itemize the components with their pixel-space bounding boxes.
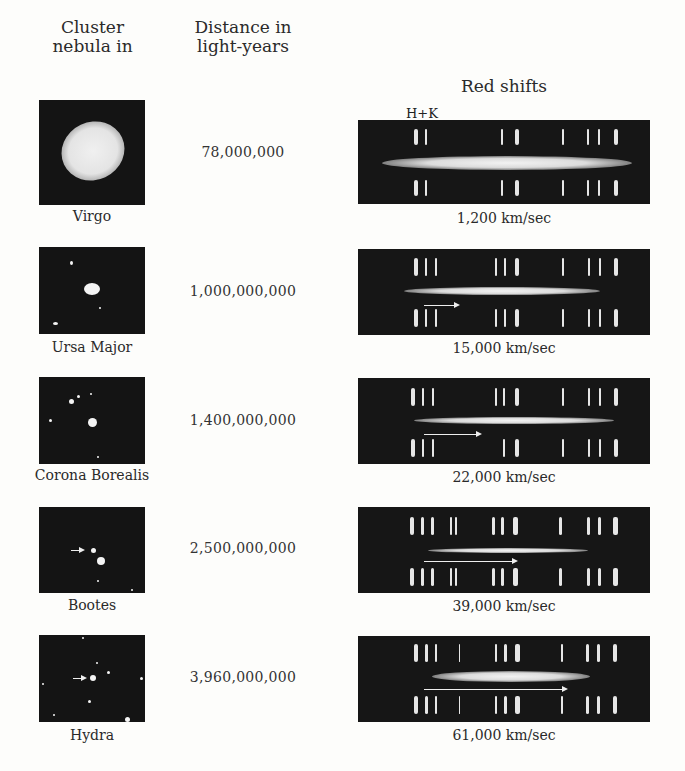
galaxy-blob — [84, 283, 100, 295]
spectrum-panel-corona-borealis — [358, 378, 650, 464]
cluster-name: Bootes — [0, 597, 184, 613]
spectrum-panel-virgo — [358, 120, 650, 204]
velocity-value: 22,000 km/sec — [358, 469, 650, 485]
galaxy-blob — [90, 675, 96, 681]
header-line: nebula in — [20, 37, 165, 56]
header-line: light-years — [170, 37, 316, 56]
bootes-nebula-image — [39, 507, 145, 593]
virgo-nebula-image — [39, 100, 145, 205]
distance-value: 3,960,000,000 — [170, 669, 316, 685]
galaxy-blob — [97, 557, 105, 565]
spectrum-panel-hydra — [358, 636, 650, 722]
cluster-column-header: Cluster nebula in — [20, 18, 165, 56]
spectrum-panel-bootes — [358, 507, 650, 593]
cluster-name: Virgo — [0, 208, 184, 224]
cluster-name: Corona Borealis — [0, 467, 184, 483]
cluster-name: Hydra — [0, 727, 184, 743]
shift-arrow-icon — [424, 434, 480, 435]
shift-arrow-icon — [424, 689, 566, 690]
hydra-nebula-image — [39, 635, 145, 722]
shift-arrow-icon — [424, 561, 516, 562]
distance-value: 1,400,000,000 — [170, 412, 316, 428]
galaxy-blob — [88, 418, 97, 427]
pointer-arrow-icon — [73, 678, 85, 679]
distance-column-header: Distance in light-years — [170, 18, 316, 56]
galaxy-blob — [52, 111, 135, 191]
distance-value: 1,000,000,000 — [170, 283, 316, 299]
cluster-name: Ursa Major — [0, 339, 184, 355]
header-line: Distance in — [170, 18, 316, 37]
corona-borealis-nebula-image — [39, 377, 145, 464]
velocity-value: 61,000 km/sec — [358, 727, 650, 743]
distance-value: 2,500,000,000 — [170, 540, 316, 556]
ursa-major-nebula-image — [39, 247, 145, 334]
pointer-arrow-icon — [71, 550, 83, 551]
header-line: Cluster — [20, 18, 165, 37]
velocity-value: 15,000 km/sec — [358, 340, 650, 356]
spectrum-panel-ursa-major — [358, 249, 650, 335]
shift-arrow-icon — [424, 305, 458, 306]
distance-value: 78,000,000 — [170, 144, 316, 160]
velocity-value: 39,000 km/sec — [358, 598, 650, 614]
hk-label: H+K — [406, 106, 438, 121]
velocity-value: 1,200 km/sec — [358, 210, 650, 226]
redshift-column-header: Red shifts — [358, 77, 650, 96]
